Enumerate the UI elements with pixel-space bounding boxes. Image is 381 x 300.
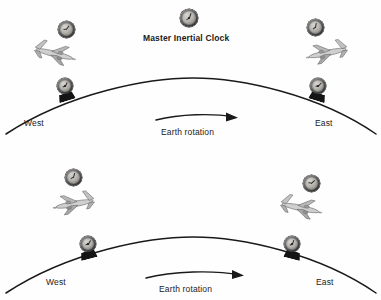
west-label-top: West	[24, 118, 44, 128]
earth-rotation-label-top: Earth rotation	[161, 127, 214, 137]
east-label-top: East	[315, 118, 333, 128]
panel-bottom: West East Earth rotation	[0, 150, 381, 300]
panel-top: Master Inertial Clock	[0, 0, 381, 150]
west-label-bottom: West	[46, 277, 66, 287]
earth-rotation-clock-diagram: Master Inertial Clock	[0, 0, 381, 300]
earth-rotation-label-bottom: Earth rotation	[159, 284, 212, 294]
east-label-bottom: East	[316, 277, 334, 287]
